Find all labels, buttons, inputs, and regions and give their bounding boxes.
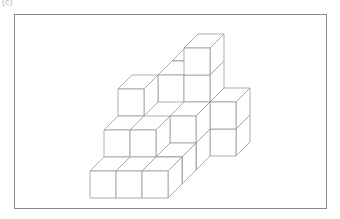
cube-front-face [210,129,236,156]
cube-front-face [184,75,210,102]
cube-front-face [118,89,144,116]
cube-front-face [90,171,116,198]
cube-front-face [130,130,156,157]
cube-front-face [184,48,210,75]
cube [118,75,158,116]
cube-front-face [158,75,184,102]
cube-diagram [0,0,340,219]
cube-front-face [116,171,142,198]
cube-front-face [210,102,236,129]
cube-front-face [142,171,168,198]
cube-front-face [104,130,130,157]
cube-front-face [170,116,196,143]
